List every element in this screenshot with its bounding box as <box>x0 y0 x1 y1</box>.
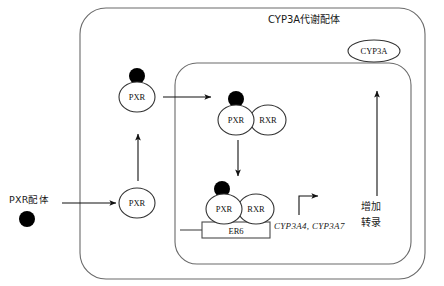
pxr-dna-bound-label: PXR <box>216 204 233 214</box>
pxr-ligand-label: PXR配体 <box>9 195 49 206</box>
diagram-vector-layer: ER6 PXR PXR RXR PXR RXR PXR CYP3A <box>0 0 444 286</box>
ligand-dot-free <box>19 211 35 227</box>
target-gene-label: CYP3A4, CYP3A7 <box>274 221 345 231</box>
pxr-nucleus-dimer-label: PXR <box>228 115 245 125</box>
increased-transcription-line1: 增加 <box>361 199 381 215</box>
er6-response-element-label: ER6 <box>228 226 243 236</box>
pxr-cytoplasm-bound-label: PXR <box>129 92 146 102</box>
pxr-cyp3a-pathway-diagram: ER6 PXR PXR RXR PXR RXR PXR CYP3A CYP3A代… <box>0 0 444 286</box>
rxr-dna-bound-label: RXR <box>247 204 265 214</box>
cyp3a-enzyme-label: CYP3A <box>361 46 389 56</box>
rxr-nucleus-dimer-label: RXR <box>259 115 277 125</box>
pxr-cytoplasm-unbound-label: PXR <box>129 198 146 208</box>
transcription-start-arrow <box>299 196 318 215</box>
increased-transcription-line2: 转录 <box>361 215 381 231</box>
figure-title: CYP3A代谢配体 <box>268 14 340 26</box>
increased-transcription-label: 增加 转录 <box>361 199 381 231</box>
